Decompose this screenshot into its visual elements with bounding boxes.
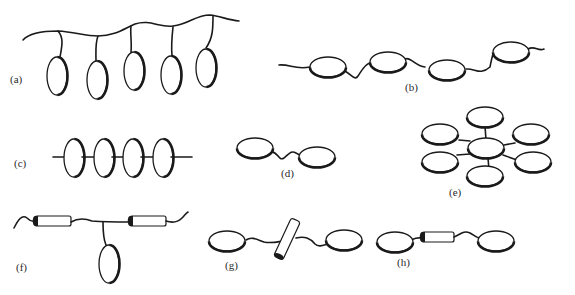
figure-canvas: (a) (b) (c) (d) xyxy=(0,0,575,295)
disk xyxy=(94,139,115,177)
disk xyxy=(467,166,503,187)
disk xyxy=(299,147,335,168)
panel-e: (e) xyxy=(422,107,551,199)
disk xyxy=(513,124,549,145)
disk xyxy=(47,57,68,95)
panel-label: (f) xyxy=(16,261,27,274)
panel-label: (e) xyxy=(449,186,462,199)
disk xyxy=(124,52,145,90)
disk xyxy=(429,60,465,81)
panel-h: (h) xyxy=(377,231,514,269)
disk xyxy=(310,57,346,78)
panel-a: (a) xyxy=(10,15,239,99)
disk xyxy=(377,232,413,253)
center-disk xyxy=(468,138,504,159)
panel-label: (a) xyxy=(10,73,23,86)
disk xyxy=(422,152,458,173)
panel-label: (g) xyxy=(225,259,238,272)
disk xyxy=(422,124,458,145)
panel-b: (b) xyxy=(279,42,544,94)
disk xyxy=(99,245,120,283)
disk xyxy=(370,52,406,73)
panel-f: (f) xyxy=(14,212,188,283)
panel-label: (h) xyxy=(397,256,410,269)
disk xyxy=(326,230,362,251)
disk xyxy=(209,231,245,252)
disk xyxy=(515,152,551,173)
panel-label: (c) xyxy=(14,157,27,170)
panel-label: (b) xyxy=(405,81,418,94)
disk xyxy=(123,139,144,177)
panel-c: (c) xyxy=(14,139,192,177)
disk xyxy=(478,231,514,252)
disk xyxy=(153,139,174,177)
disk xyxy=(196,49,217,87)
disk xyxy=(237,138,273,159)
disk xyxy=(64,139,85,177)
disk xyxy=(87,61,108,99)
panel-label: (d) xyxy=(281,167,294,180)
disk xyxy=(467,107,503,128)
panel-g: (g) xyxy=(209,218,362,272)
disk xyxy=(493,42,529,63)
disk xyxy=(161,56,182,94)
panel-d: (d) xyxy=(237,138,335,180)
